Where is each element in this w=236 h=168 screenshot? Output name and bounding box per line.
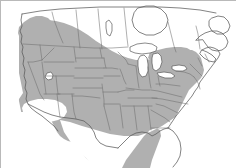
lake-michigan: [138, 55, 148, 77]
hudson-bay: [132, 6, 168, 35]
lake-ontario: [172, 65, 187, 71]
range-map-figure: [0, 0, 236, 168]
canada-northern-edge: [22, 7, 216, 14]
pacific-ocean: [0, 0, 24, 168]
state-border-nh-me: [205, 54, 209, 62]
newfoundland-outline: [209, 16, 230, 34]
lake-winnipeg: [106, 20, 112, 36]
province-border-mb-on: [124, 8, 128, 46]
lake-superior: [130, 43, 157, 54]
north-america-map: [0, 0, 236, 168]
